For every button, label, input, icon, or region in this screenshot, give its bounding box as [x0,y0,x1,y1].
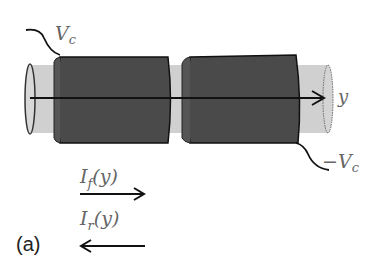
diagram-canvas: y Vc −Vc If(y) Ir(y) (a) [0,0,386,275]
tube-right-end [323,65,333,133]
electrode-left [54,57,171,143]
reverse-current-label: Ir(y) [79,207,119,233]
axis-label-y: y [337,86,349,107]
reverse-current-arrow [81,240,145,252]
cylinder-diagram: y Vc −Vc If(y) Ir(y) (a) [0,0,386,275]
panel-label: (a) [16,233,40,255]
voltage-label-bottom: −Vc [322,150,360,175]
voltage-label-top: Vc [55,22,77,47]
forward-current-label: If(y) [79,165,118,191]
